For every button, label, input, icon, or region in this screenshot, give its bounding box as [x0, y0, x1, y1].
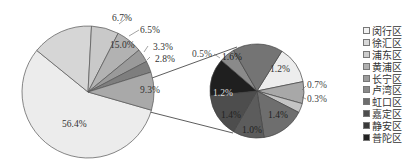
- leader-line: [147, 57, 150, 60]
- pie-of-pie-chart: 56.4%15.0%6.7%6.5%3.3%2.8%9.3% 1.2%0.7%0…: [0, 0, 418, 165]
- sub-pie-label: 1.2%: [270, 64, 290, 74]
- leader-line: [144, 46, 148, 52]
- legend-swatch: [363, 75, 370, 82]
- sub-pie-label: 0.3%: [307, 94, 327, 104]
- leader-line: [129, 30, 139, 36]
- sub-pie-label: 0.5%: [192, 49, 212, 59]
- legend-swatch: [363, 134, 370, 141]
- legend-swatch: [363, 122, 370, 129]
- legend-entry: 普陀区: [363, 131, 402, 143]
- sub-pie-label: 1.0%: [242, 125, 262, 135]
- main-pie-label: 2.8%: [155, 54, 175, 64]
- legend-swatch: [363, 51, 370, 58]
- main-pie: 56.4%15.0%6.7%6.5%3.3%2.8%9.3%: [22, 13, 175, 158]
- sub-pie-label: 1.4%: [221, 110, 241, 120]
- main-pie-label: 56.4%: [62, 119, 87, 129]
- main-pie-label: 3.3%: [153, 42, 173, 52]
- legend-swatch: [363, 86, 370, 93]
- sub-pie-label: 1.6%: [222, 52, 242, 62]
- sub-pie-label: 0.7%: [307, 80, 327, 90]
- legend-swatch: [363, 110, 370, 117]
- main-pie-label: 6.5%: [140, 25, 160, 35]
- main-pie-label: 15.0%: [110, 40, 135, 50]
- sub-pie-label: 1.2%: [213, 88, 233, 98]
- legend-label: 普陀区: [372, 130, 402, 145]
- legend-swatch: [363, 27, 370, 34]
- sub-pie: 1.2%0.7%0.3%1.4%1.0%1.4%1.2%0.5%1.6%: [192, 44, 327, 138]
- sub-pie-label: 1.4%: [268, 110, 288, 120]
- legend: 闵行区徐汇区浦东区黄浦区长宁区卢湾区虹口区嘉定区静安区普陀区: [363, 25, 402, 143]
- legend-swatch: [363, 63, 370, 70]
- legend-swatch: [363, 39, 370, 46]
- legend-swatch: [363, 98, 370, 105]
- main-pie-label: 9.3%: [140, 85, 160, 95]
